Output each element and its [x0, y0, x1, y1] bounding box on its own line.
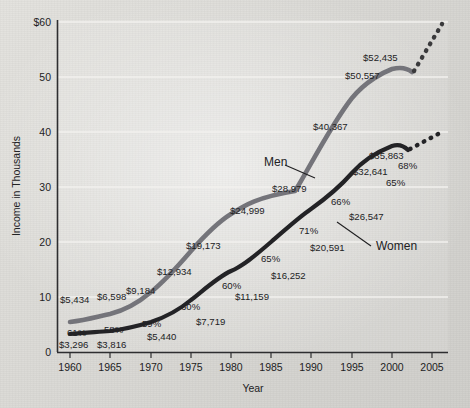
ratio-percent-label: 71%	[299, 225, 319, 236]
x-axis-title: Year	[242, 382, 264, 394]
ratio-percent-label: 60%	[222, 280, 242, 291]
value-label-women: $3,816	[97, 339, 126, 350]
value-label-men: $12,934	[157, 266, 192, 277]
x-tick-label: 1965	[98, 361, 122, 373]
value-label-men: $28,979	[272, 183, 307, 194]
ratio-percent-label: 65%	[261, 253, 281, 264]
value-label-women: $5,440	[147, 331, 176, 342]
ratio-percent-label: 61%	[67, 327, 87, 338]
y-tick-label: 50	[39, 71, 51, 83]
income-by-gender-line-chart: 1960 1965 1970 1975 1980 1985 1990 1995 …	[0, 0, 470, 408]
value-label-women: $3,296	[59, 339, 88, 350]
x-tick-label: 1990	[299, 361, 323, 373]
ratio-percent-label: 60%	[181, 301, 201, 312]
y-tick-label: 0	[45, 346, 51, 358]
x-tick-label: 1960	[58, 361, 82, 373]
y-axis-tick-labels: 0 10 20 30 40 50 $60	[33, 16, 51, 358]
x-tick-label: 1985	[259, 361, 283, 373]
ratio-percent-label: 58%	[104, 324, 124, 335]
series-label-women: Women	[376, 239, 417, 253]
ratio-percent-label: 66%	[331, 196, 351, 207]
value-label-men: $50,557	[345, 70, 380, 81]
x-tick-label: 1980	[219, 361, 243, 373]
value-label-women: $20,591	[310, 242, 345, 253]
chart-svg: 1960 1965 1970 1975 1980 1985 1990 1995 …	[0, 0, 470, 408]
y-axis-title: Income in Thousands	[10, 136, 22, 236]
y-tick-label: 40	[39, 126, 51, 138]
x-tick-label: 2000	[380, 361, 404, 373]
ratio-percent-label: 59%	[142, 318, 162, 329]
value-label-women: $7,719	[196, 316, 225, 327]
x-tick-label: 1970	[139, 361, 163, 373]
value-label-women: $16,252	[271, 270, 306, 281]
series-label-men: Men	[264, 155, 287, 169]
x-tick-label: 1995	[340, 361, 364, 373]
value-label-women: $32,641	[353, 166, 388, 177]
value-label-men: $9,184	[126, 285, 156, 296]
y-tick-label: 20	[39, 236, 51, 248]
value-label-men: $40,367	[313, 121, 348, 132]
ratio-percent-label: 68%	[398, 160, 418, 171]
value-label-men: $24,999	[230, 205, 265, 216]
x-axis-tick-labels: 1960 1965 1970 1975 1980 1985 1990 1995 …	[58, 361, 444, 373]
value-label-women: $26,547	[349, 211, 384, 222]
value-label-women: $11,159	[235, 291, 269, 302]
value-label-men: $5,434	[60, 294, 90, 305]
y-tick-label: 30	[39, 181, 51, 193]
y-tick-label: $60	[33, 16, 51, 28]
x-tick-label: 1975	[179, 361, 203, 373]
value-label-men: $52,435	[363, 52, 398, 63]
ratio-percent-label: 65%	[386, 177, 406, 188]
value-label-men: $6,598	[97, 291, 126, 302]
value-label-men: $19,173	[186, 240, 221, 251]
x-tick-label: 2005	[420, 361, 444, 373]
y-tick-label: 10	[39, 291, 51, 303]
